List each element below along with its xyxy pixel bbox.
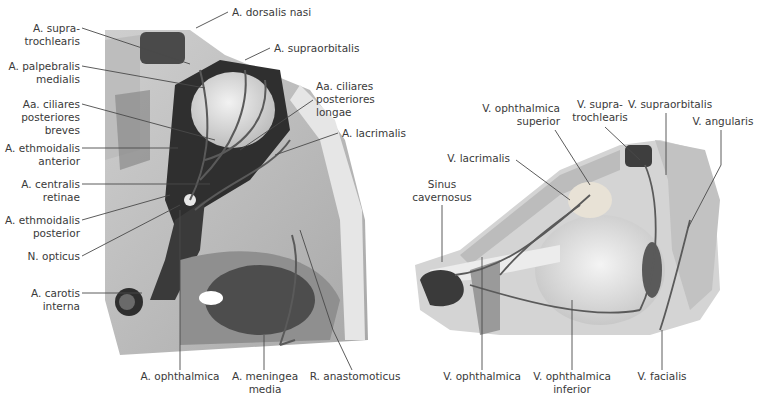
- label-a-ethmoidalis-posterior: A. ethmoidalis posterior: [0, 214, 80, 240]
- label-text: V. supraorbitalis: [628, 98, 712, 110]
- left-figure-artwork: [105, 30, 368, 355]
- label-v-ophthalmica-inferior: V. ophthalmica inferior: [527, 370, 617, 396]
- label-a-ophthalmica: A. ophthalmica: [135, 370, 225, 383]
- label-a-supratrochlearis: A. supra- trochlearis: [10, 22, 80, 48]
- label-a-dorsalis-nasi: A. dorsalis nasi: [232, 6, 311, 19]
- label-a-ethmoidalis-anterior: A. ethmoidalis anterior: [0, 142, 80, 168]
- label-text: N. opticus: [27, 250, 80, 262]
- label-text: A. lacrimalis: [342, 127, 406, 139]
- label-a-supraorbitalis: A. supraorbitalis: [274, 42, 359, 55]
- right-figure-artwork: [415, 140, 720, 335]
- label-text: Aa. ciliares posteriores longae: [316, 80, 375, 118]
- label-aa-ciliares-posteriores-breves: Aa. ciliares posteriores breves: [0, 98, 80, 137]
- label-v-lacrimalis: V. lacrimalis: [440, 152, 510, 165]
- label-v-ophthalmica: V. ophthalmica: [437, 370, 527, 383]
- label-text: A. centralis retinae: [21, 178, 80, 203]
- label-text: A. dorsalis nasi: [232, 6, 311, 18]
- label-text: V. lacrimalis: [447, 152, 510, 164]
- label-a-carotis-interna: A. carotis interna: [0, 287, 80, 313]
- label-text: A. carotis interna: [31, 287, 80, 312]
- label-v-supraorbitalis: V. supraorbitalis: [620, 98, 720, 111]
- illustration-layer: [0, 0, 765, 412]
- label-n-opticus: N. opticus: [0, 250, 80, 263]
- label-text: V. facialis: [637, 370, 686, 382]
- label-text: Aa. ciliares posteriores breves: [21, 98, 80, 136]
- label-text: A. supraorbitalis: [274, 42, 359, 54]
- label-a-lacrimalis: A. lacrimalis: [342, 127, 406, 140]
- label-text: R. anastomoticus: [310, 370, 401, 382]
- label-text: A. ethmoidalis posterior: [5, 214, 80, 239]
- label-text: A. palpebralis medialis: [8, 60, 80, 85]
- label-text: A. supra- trochlearis: [24, 22, 80, 47]
- label-text: V. ophthalmica inferior: [533, 370, 611, 395]
- label-a-meningea-media: A. meningea media: [225, 370, 305, 396]
- label-text: V. ophthalmica superior: [482, 102, 560, 127]
- label-text: V. ophthalmica: [443, 370, 521, 382]
- label-text: Sinus cavernosus: [412, 178, 472, 203]
- label-text: A. ethmoidalis anterior: [5, 142, 80, 167]
- label-text: A. ophthalmica: [141, 370, 220, 382]
- label-text: V. angularis: [693, 115, 754, 127]
- label-a-palpebralis-medialis: A. palpebralis medialis: [0, 60, 80, 86]
- label-a-centralis-retinae: A. centralis retinae: [0, 178, 80, 204]
- label-v-facialis: V. facialis: [622, 370, 702, 383]
- label-text: A. meningea media: [232, 370, 298, 395]
- label-v-angularis: V. angularis: [688, 115, 758, 128]
- label-aa-ciliares-posteriores-longae: Aa. ciliares posteriores longae: [316, 80, 375, 119]
- label-v-ophthalmica-superior: V. ophthalmica superior: [470, 102, 560, 128]
- label-sinus-cavernosus: Sinus cavernosus: [407, 178, 477, 204]
- label-r-anastomoticus: R. anastomoticus: [305, 370, 405, 383]
